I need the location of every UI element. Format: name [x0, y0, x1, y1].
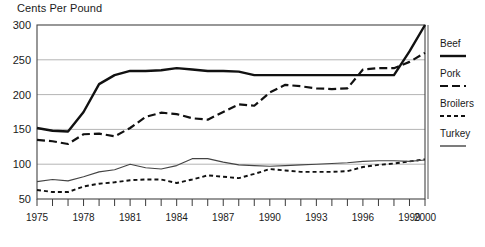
x-axis-tick-label: 1981	[119, 212, 142, 223]
y-axis-tick-label: 300	[13, 19, 31, 31]
y-axis-tick-label: 100	[13, 158, 31, 170]
data-series	[37, 25, 425, 192]
legend-label-turkey[interactable]: Turkey	[440, 128, 470, 139]
x-axis-tick-label: 1978	[72, 212, 95, 223]
x-axis-tick-label: 1984	[166, 212, 189, 223]
x-axis-tick-label: 1996	[352, 212, 375, 223]
series-line-beef	[37, 25, 425, 131]
x-axis-tick-label: 1987	[212, 212, 235, 223]
y-axis-tick-label: 250	[13, 54, 31, 66]
legend-label-pork[interactable]: Pork	[440, 68, 462, 79]
y-axis-tick-label: 200	[13, 89, 31, 101]
y-axis-tick-labels: 50100150200250300	[13, 19, 31, 205]
x-axis-tick-labels: 1975197819811984198719901993199619992000	[26, 212, 437, 223]
series-line-pork	[37, 53, 425, 144]
x-axis-tick-label: 1990	[259, 212, 282, 223]
y-axis-tick-label: 150	[13, 123, 31, 135]
chart-page: Cents Per Pound 50100150200250300 197519…	[0, 0, 485, 247]
x-axis-tick-label: 2000	[414, 212, 437, 223]
x-axis-tick-label: 1975	[26, 212, 49, 223]
legend-label-broilers[interactable]: Broilers	[440, 98, 474, 109]
x-axis-tick-label: 1993	[305, 212, 328, 223]
x-axis-tick-marks	[37, 199, 425, 206]
line-chart: 50100150200250300 1975197819811984198719…	[0, 0, 485, 247]
legend: BeefPorkBroilersTurkey	[428, 25, 474, 199]
legend-label-beef[interactable]: Beef	[440, 38, 461, 49]
y-axis-tick-label: 50	[19, 193, 31, 205]
